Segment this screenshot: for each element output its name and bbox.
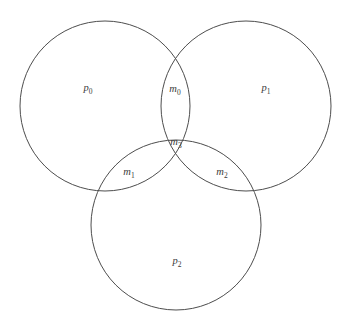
region-label-m0-sub: 0 bbox=[177, 88, 181, 97]
venn-diagram: p0 p1 p2 m0 m1 m2 m3 bbox=[0, 0, 350, 328]
venn-circle-p0 bbox=[20, 21, 190, 191]
region-label-m1: m1 bbox=[123, 166, 135, 179]
region-label-m2-sub: 2 bbox=[224, 171, 228, 180]
region-label-p1: p1 bbox=[261, 82, 271, 95]
venn-diagram-canvas: p0 p1 p2 m0 m1 m2 m3 bbox=[0, 0, 350, 328]
region-label-m0: m0 bbox=[169, 83, 181, 96]
region-label-p2: p2 bbox=[172, 255, 182, 268]
region-label-p0-sub: 0 bbox=[89, 87, 93, 96]
venn-circle-p1 bbox=[161, 21, 331, 191]
venn-circle-p2 bbox=[91, 140, 261, 310]
region-label-p0: p0 bbox=[83, 82, 93, 95]
region-label-m1-sub: 1 bbox=[131, 171, 135, 180]
region-label-p2-sub: 2 bbox=[178, 260, 182, 269]
region-label-p1-sub: 1 bbox=[267, 87, 271, 96]
region-label-m2: m2 bbox=[216, 166, 228, 179]
region-label-m3-sub: 3 bbox=[178, 141, 182, 150]
